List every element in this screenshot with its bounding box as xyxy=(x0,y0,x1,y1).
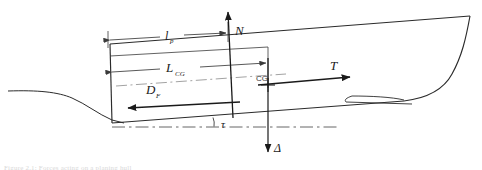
label-thrust: T xyxy=(330,58,338,73)
dimension-lcg xyxy=(110,47,268,88)
label-pressure-length-symbol: l xyxy=(165,29,169,43)
label-lcg: L CG xyxy=(165,60,185,78)
label-pressure-length: l p xyxy=(165,29,174,45)
trim-angle-arc xyxy=(213,118,214,127)
water-surface-line xyxy=(8,91,124,123)
label-normal-force: N xyxy=(234,23,245,38)
diagram-canvas: N T D F Δ τ CG l p L CG xyxy=(0,0,482,170)
label-lcg-subscript: CG xyxy=(175,70,185,78)
label-center-of-gravity: CG xyxy=(256,74,268,83)
figure-caption: Figure 2.1: Forces acting on a planing h… xyxy=(4,164,132,170)
label-friction-drag: D F xyxy=(145,82,161,100)
force-vector-thrust xyxy=(258,77,350,85)
planing-hull-force-diagram: N T D F Δ τ CG l p L CG Figure 2.1: Forc… xyxy=(0,0,482,170)
label-friction-drag-subscript: F xyxy=(155,92,161,100)
label-lcg-symbol: L xyxy=(165,60,173,75)
hull-outline xyxy=(110,16,470,123)
label-friction-drag-symbol: D xyxy=(145,82,156,97)
force-vector-friction-drag xyxy=(128,102,240,108)
label-pressure-length-subscript: p xyxy=(169,37,174,45)
label-displacement: Δ xyxy=(273,141,281,155)
label-trim-angle: τ xyxy=(221,118,226,130)
